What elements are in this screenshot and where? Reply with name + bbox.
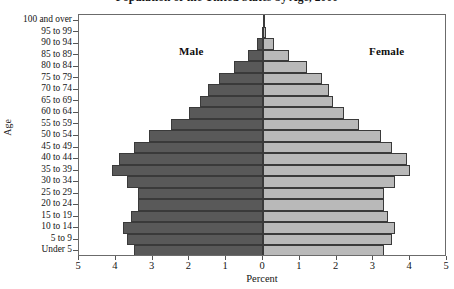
bar-male bbox=[119, 153, 263, 165]
bar-row bbox=[79, 119, 445, 131]
x-axis-tick-label: 4 bbox=[394, 260, 424, 271]
bar-male bbox=[189, 107, 263, 119]
male-series-label: Male bbox=[179, 45, 204, 57]
bar-female bbox=[263, 142, 392, 154]
bar-male bbox=[131, 211, 263, 223]
bar-male bbox=[134, 142, 263, 154]
female-series-label: Female bbox=[369, 45, 404, 57]
bar-row bbox=[79, 142, 445, 154]
y-axis-tick-mark bbox=[73, 20, 78, 21]
bar-male bbox=[171, 119, 263, 131]
population-pyramid-chart: Population of the United States by Age, … bbox=[0, 0, 454, 289]
bar-row bbox=[79, 96, 445, 108]
x-axis-tick-label: 4 bbox=[100, 260, 130, 271]
bar-male bbox=[248, 50, 263, 62]
y-axis-tick-label: 15 to 19 bbox=[41, 210, 72, 222]
y-axis-tick-mark bbox=[73, 89, 78, 90]
bar-male bbox=[138, 188, 263, 200]
bar-male bbox=[219, 73, 263, 85]
y-axis-tick-label: 55 to 59 bbox=[41, 118, 72, 130]
y-axis-tick-label: 80 to 84 bbox=[41, 60, 72, 72]
bar-female bbox=[263, 15, 265, 27]
y-axis-tick-mark bbox=[73, 239, 78, 240]
bar-row bbox=[79, 15, 445, 27]
bar-female bbox=[263, 245, 384, 256]
bar-female bbox=[263, 107, 344, 119]
bar-row bbox=[79, 188, 445, 200]
y-axis-tick-label: 25 to 29 bbox=[41, 187, 72, 199]
bar-male bbox=[127, 234, 263, 246]
bar-female bbox=[263, 199, 384, 211]
bar-row bbox=[79, 222, 445, 234]
y-axis-tick-label: 30 to 34 bbox=[41, 175, 72, 187]
y-axis-tick-mark bbox=[73, 227, 78, 228]
bar-male bbox=[149, 130, 263, 142]
y-axis-tick-label: 35 to 39 bbox=[41, 164, 72, 176]
chart-title: Population of the United States by Age, … bbox=[0, 0, 454, 3]
x-axis-tick-label: 1 bbox=[210, 260, 240, 271]
bar-row bbox=[79, 234, 445, 246]
y-axis-tick-mark bbox=[73, 135, 78, 136]
x-axis-tick-label: 5 bbox=[63, 260, 93, 271]
y-axis-tick-mark bbox=[73, 54, 78, 55]
bar-female bbox=[263, 130, 381, 142]
y-axis-tick-label: 75 to 79 bbox=[41, 72, 72, 84]
y-axis-tick-label: 20 to 24 bbox=[41, 198, 72, 210]
y-axis-tick-label: 45 to 49 bbox=[41, 141, 72, 153]
bar-male bbox=[127, 176, 263, 188]
y-axis-tick-mark bbox=[73, 181, 78, 182]
plot-area: Male Female bbox=[78, 14, 446, 256]
bar-row bbox=[79, 176, 445, 188]
x-axis-tick-label: 3 bbox=[357, 260, 387, 271]
bar-row bbox=[79, 199, 445, 211]
y-axis-tick-mark bbox=[73, 170, 78, 171]
bar-male bbox=[200, 96, 263, 108]
bar-row bbox=[79, 165, 445, 177]
y-axis-tick-label: 70 to 74 bbox=[41, 83, 72, 95]
y-axis-tick-label: 40 to 44 bbox=[41, 152, 72, 164]
bar-female bbox=[263, 73, 322, 85]
bar-female bbox=[263, 153, 407, 165]
y-axis-tick-mark bbox=[73, 77, 78, 78]
bar-row bbox=[79, 61, 445, 73]
bar-row bbox=[79, 107, 445, 119]
bar-female bbox=[263, 50, 289, 62]
bar-male bbox=[234, 61, 263, 73]
y-axis-tick-mark bbox=[73, 66, 78, 67]
y-axis-tick-label: 95 to 99 bbox=[41, 26, 72, 38]
bar-female bbox=[263, 222, 395, 234]
y-axis-tick-label: 90 to 94 bbox=[41, 37, 72, 49]
y-axis-tick-mark bbox=[73, 100, 78, 101]
bar-row bbox=[79, 153, 445, 165]
bar-male bbox=[112, 165, 263, 177]
y-axis-tick-label: 5 to 9 bbox=[51, 233, 72, 245]
bar-male bbox=[123, 222, 263, 234]
bar-row bbox=[79, 84, 445, 96]
y-axis-tick-mark bbox=[73, 31, 78, 32]
bar-row bbox=[79, 245, 445, 256]
bar-male bbox=[134, 245, 263, 256]
bar-female bbox=[263, 234, 392, 246]
bar-female bbox=[263, 84, 329, 96]
y-axis-tick-mark bbox=[73, 158, 78, 159]
bar-female bbox=[263, 27, 266, 39]
x-axis-tick-label: 2 bbox=[321, 260, 351, 271]
y-axis-tick-mark bbox=[73, 112, 78, 113]
bar-female bbox=[263, 165, 410, 177]
y-axis-tick-mark bbox=[73, 250, 78, 251]
x-axis-title: Percent bbox=[0, 273, 446, 284]
bar-row bbox=[79, 73, 445, 85]
y-axis-tick-label: 50 to 54 bbox=[41, 129, 72, 141]
bar-row bbox=[79, 130, 445, 142]
y-axis-tick-label: Under 5 bbox=[42, 244, 72, 256]
y-axis-tick-label: 60 to 64 bbox=[41, 106, 72, 118]
bar-row bbox=[79, 211, 445, 223]
y-axis-tick-label: 100 and over bbox=[23, 14, 72, 26]
y-axis-tick-label: 85 to 89 bbox=[41, 49, 72, 61]
x-axis-tick-label: 5 bbox=[431, 260, 454, 271]
x-axis-tick-label: 3 bbox=[137, 260, 167, 271]
bar-female bbox=[263, 211, 388, 223]
x-axis-tick-label: 1 bbox=[284, 260, 314, 271]
bar-female bbox=[263, 119, 359, 131]
y-axis-tick-labels: 100 and over95 to 9990 to 9485 to 8980 t… bbox=[0, 14, 74, 256]
